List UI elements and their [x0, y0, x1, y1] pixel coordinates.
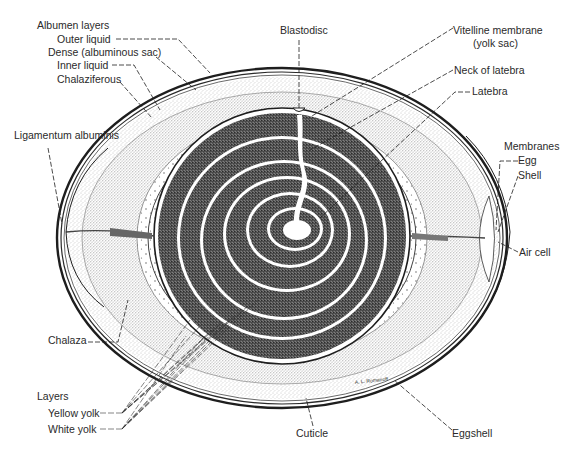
label-outer-liquid: Outer liquid [57, 33, 111, 45]
label-vitelline-membrane: Vitelline membrane [453, 24, 543, 36]
label-yolk-sac: (yolk sac) [473, 37, 518, 49]
label-chalaziferous: Chalaziferous [57, 73, 121, 85]
label-air-cell: Air cell [519, 246, 551, 258]
label-layers: Layers [37, 390, 69, 402]
label-membranes: Membranes [504, 140, 559, 152]
label-blastodisc: Blastodisc [280, 24, 328, 36]
label-latebra: Latebra [472, 85, 508, 97]
label-inner-liquid: Inner liquid [57, 59, 108, 71]
label-yellow-yolk: Yellow yolk [48, 407, 100, 419]
latebra [283, 220, 311, 240]
leader-eggshell [394, 380, 452, 430]
leader-dense [156, 57, 196, 90]
label-egg-membrane: Egg [518, 154, 537, 166]
leader-ligamentum [48, 148, 62, 224]
yolk-layers [158, 113, 406, 359]
label-neck-of-latebra: Neck of latebra [454, 64, 525, 76]
label-albumen-layers: Albumen layers [37, 19, 109, 31]
label-white-yolk: White yolk [48, 423, 96, 435]
label-cuticle: Cuticle [296, 427, 328, 439]
label-ligamentum-albuminis: Ligamentum albuminis [14, 129, 119, 141]
label-dense-albumen: Dense (albuminous sac) [48, 46, 161, 58]
label-eggshell: Eggshell [452, 427, 492, 439]
label-shell-membrane: Shell [518, 169, 541, 181]
label-chalaza: Chalaza [48, 334, 87, 346]
